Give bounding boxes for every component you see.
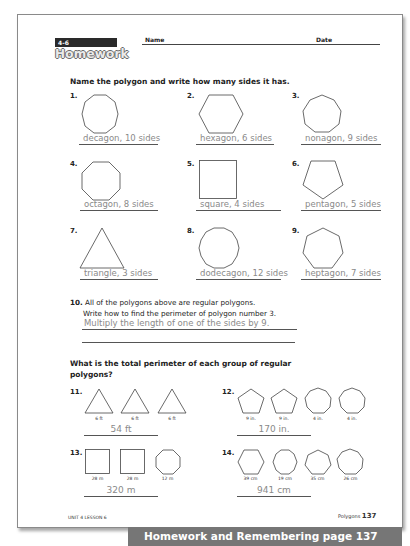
side-length: 35 cm [304,476,331,481]
answer-13: 320 m [84,484,158,497]
homework-title: Homework [55,47,129,61]
item-number: 14. [222,449,234,457]
side-length: 6 ft [158,416,186,421]
date-label: Date [316,36,332,43]
name-date-line [142,44,380,45]
pentagon-shape [302,160,344,200]
item-number: 10. [70,298,83,307]
dodecagon-shape [198,227,240,269]
side-length: 6 ft [85,416,113,421]
unit-lesson-label: UNIT 4 LESSON 6 [68,515,107,520]
instructions: Name the polygon and write how many side… [70,77,290,86]
side-length: 28 m [120,476,145,481]
name-label: Name [145,36,164,43]
pentagon-shape [271,388,299,414]
answer-7: triangle, 3 sides [80,268,158,280]
answer-14: 941 cm [237,484,311,497]
square-shape [120,449,146,475]
nonagon-shape [339,388,367,414]
item-number: 4. [70,160,78,168]
pentagon-shape [238,388,266,414]
triangle-shape [85,388,115,414]
heptagon-shape [302,227,344,269]
question-10: 10. All of the polygons above are regula… [70,297,276,319]
side-length: 6 ft [121,416,149,421]
hexagon-shape [198,94,244,134]
item-number: 2. [187,92,195,100]
answer-8: dodecagon, 12 sides [196,268,281,280]
item-number: 5. [187,160,195,168]
triangle-shape [121,388,151,414]
answer-6: pentagon, 5 sides [301,199,381,211]
perimeter-instructions: What is the total perimeter of each grou… [70,358,300,380]
side-length: 26 cm [337,476,364,481]
answer-2: hexagon, 6 sides [196,133,274,145]
nonagon-shape [337,449,365,475]
side-length: 12 m [155,476,180,481]
q10-answer: Multiply the length of one of the sides … [82,318,297,330]
answer-12: 170 in. [237,423,311,436]
octagon-shape [81,161,121,201]
section-label: Polygons [338,513,360,519]
side-length: 9 in. [271,416,297,421]
item-number: 13. [70,449,82,457]
side-length: 39 cm [237,476,264,481]
triangle-shape [79,227,125,269]
square-shape [85,449,111,475]
item-number: 11. [70,388,82,396]
heptagon-shape [304,449,332,475]
answer-4: octagon, 8 sides [80,199,158,211]
item-number: 8. [187,227,195,235]
item-number: 12. [222,388,234,396]
triangle-shape [158,388,188,414]
item-number: 6. [292,160,300,168]
page-reference-banner: Homework and Remembering page 137 [128,527,402,546]
lesson-number-bar: 4-6 [55,38,117,47]
item-number: 9. [292,227,300,235]
nonagon-shape [302,94,342,134]
decagon-shape [80,94,120,134]
q10-blank-line [82,342,295,343]
side-length: 28 m [85,476,110,481]
side-length: 19 cm [272,476,298,481]
answer-5: square, 4 sides [196,199,281,211]
answer-1: decagon, 10 sides [79,133,158,145]
answer-9: heptagon, 7 sides [301,268,381,280]
q10-line1: All of the polygons above are regular po… [85,298,255,307]
answer-11: 54 ft [84,423,158,436]
page-footer-right: Polygons 137 [338,512,376,520]
page-number: 137 [362,512,377,520]
side-length: 4 in. [305,416,331,421]
item-number: 3. [292,92,300,100]
item-number: 7. [70,227,78,235]
octagon-shape [155,449,181,475]
side-length: 4 in. [339,416,365,421]
hexagon-shape [237,449,265,475]
item-number: 1. [70,92,78,100]
decagon-shape [272,449,298,475]
square-shape [199,160,239,200]
nonagon-shape [305,388,333,414]
answer-3: nonagon, 9 sides [301,133,381,145]
side-length: 9 in. [238,416,264,421]
